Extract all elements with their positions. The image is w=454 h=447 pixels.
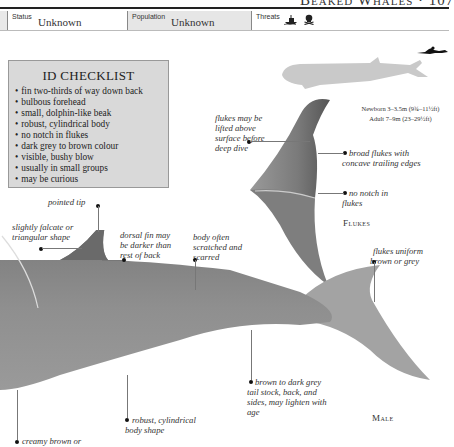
leader-line <box>318 153 344 154</box>
checklist-item: no notch in flukes <box>15 130 143 141</box>
leader-line <box>42 248 82 249</box>
threats-cell: Threats <box>251 11 450 30</box>
annotation-flukes-lifted: flukes may be lifted above surface befor… <box>215 113 280 153</box>
population-value: Unknown <box>171 16 214 28</box>
threats-label: Threats <box>256 13 280 20</box>
fishing-boat-icon <box>284 15 298 25</box>
checklist-title: ID CHECKLIST <box>9 68 168 84</box>
checklist-item: may be curious <box>15 174 143 185</box>
checklist-item: usually in small groups <box>15 163 143 174</box>
checklist-item: bulbous forehead <box>15 97 143 108</box>
status-label: Status <box>12 13 32 20</box>
annotation-body-scarred: body often scratched and scarred <box>193 232 255 262</box>
annotation-tail-stock: brown to dark grey tail stock, back, and… <box>247 377 327 417</box>
annotation-robust-body: robust, cylindrical body shape <box>125 415 205 435</box>
annotation-pointed-tip: pointed tip <box>48 197 85 207</box>
checklist-items: fin two-thirds of way down back bulbous … <box>15 86 143 185</box>
status-cell: Status Unknown <box>7 11 128 30</box>
checklist-item: robust, cylindrical body <box>15 119 143 130</box>
annotation-broad-flukes: broad flukes with concave trailing edges <box>342 148 437 168</box>
annotation-no-notch: no notch in flukes <box>342 188 392 208</box>
leader-line <box>318 193 344 194</box>
male-caption: Male <box>372 413 394 423</box>
checklist-item: small, dolphin-like beak <box>15 108 143 119</box>
annotation-dot <box>122 258 126 262</box>
status-bar: Status Unknown Population Unknown Threat… <box>0 11 449 31</box>
skull-crossbones-icon <box>304 14 314 25</box>
checklist-item: dark grey to brown colour <box>15 141 143 152</box>
leader-line <box>251 330 252 380</box>
adult-size: Adult 7–9m (23–29½ft) <box>352 114 449 124</box>
annotation-creamy: creamy brown or <box>22 436 81 446</box>
leader-line <box>102 260 122 261</box>
population-cell: Population Unknown <box>127 11 252 30</box>
leader-line <box>127 375 128 418</box>
checklist-item: visible, bushy blow <box>15 152 143 163</box>
header-rule <box>0 7 449 9</box>
population-label: Population <box>132 13 165 20</box>
annotation-flukes-uniform: flukes uniform brown or grey <box>370 246 445 266</box>
leader-line <box>195 260 196 290</box>
whale-size-silhouette <box>280 55 430 93</box>
leader-line <box>250 141 310 142</box>
checklist-item: fin two-thirds of way down back <box>15 86 143 97</box>
status-value: Unknown <box>38 16 81 28</box>
annotation-dorsal-darker: dorsal fin may be darker than rest of ba… <box>120 230 180 260</box>
annotation-falcate-shape: slightly falcate or triangular shape <box>12 222 82 242</box>
newborn-size: Newborn 3–3.5m (9¾–11½ft) <box>352 104 449 114</box>
size-info: Newborn 3–3.5m (9¾–11½ft) Adult 7–9m (23… <box>352 104 449 124</box>
annotation-dot <box>15 440 19 444</box>
leader-line <box>17 390 18 440</box>
flukes-caption: Flukes <box>343 218 370 228</box>
id-checklist-box: ID CHECKLIST fin two-thirds of way down … <box>8 60 169 188</box>
leader-line <box>98 206 99 232</box>
leader-line <box>374 262 375 302</box>
